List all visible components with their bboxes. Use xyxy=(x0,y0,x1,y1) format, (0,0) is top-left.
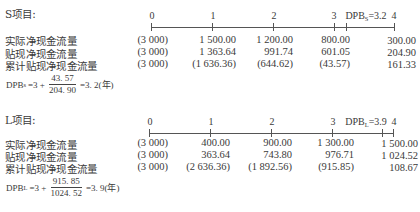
dpb-formula: DPBs =3 + 43. 57 204. 90 =3. 2(年) xyxy=(6,73,114,96)
cell: 976.71 xyxy=(284,149,354,160)
period-label: 0 xyxy=(148,116,153,127)
cell: 1 300.00 xyxy=(284,137,354,148)
cell: (3 000) xyxy=(98,137,168,148)
dpb-value: =3.2 xyxy=(368,10,386,21)
formula-prefix: =3 + xyxy=(28,80,45,90)
formula-result: =3. 2(年) xyxy=(80,78,114,91)
formula-lhs-sub: L xyxy=(24,184,28,191)
cell: 1 500.00 xyxy=(348,138,418,149)
cell: 300.00 xyxy=(346,35,416,46)
cell: 161.33 xyxy=(346,59,416,70)
cell: (43.57) xyxy=(280,58,350,69)
dpb-marker-label: DPBL=3.9 xyxy=(345,116,387,128)
dpb-marker-label: DPBS=3.2 xyxy=(345,10,386,22)
period-label: 0 xyxy=(150,10,155,21)
cell: (3 000) xyxy=(98,46,168,57)
cell: 108.67 xyxy=(348,162,418,173)
cell: (1 892.56) xyxy=(222,161,292,172)
formula-prefix: =3 + xyxy=(30,183,47,193)
period-label: 3 xyxy=(331,116,336,127)
section-title: L项目: xyxy=(5,112,36,127)
formula-lhs-sub: s xyxy=(24,81,27,88)
cell: 900.00 xyxy=(222,137,292,148)
timeline-tick xyxy=(149,129,150,137)
formula-result: =3. 9(年) xyxy=(86,181,120,194)
formula-denominator: 1024. 52 xyxy=(48,188,84,199)
period-label: 1 xyxy=(211,10,216,21)
cell: (915.85) xyxy=(284,161,354,172)
timeline-tick xyxy=(271,129,272,137)
section-l-project: L项目: 0 1 2 3 DPBL=3.9 4 实际净现金流量 (3 000) … xyxy=(0,106,420,212)
row-label: 累计贴现净现金流量 xyxy=(5,58,98,73)
timeline-tick xyxy=(332,129,333,137)
formula-fraction: 43. 57 204. 90 xyxy=(47,73,78,96)
cell: 1 024.52 xyxy=(348,150,418,161)
timeline-tick-dpb xyxy=(382,129,383,137)
section-title: S项目: xyxy=(5,6,36,21)
period-label: 2 xyxy=(272,10,277,21)
cell: 363.64 xyxy=(160,149,230,160)
timeline-tick xyxy=(210,129,211,137)
timeline-tick xyxy=(212,23,213,31)
timeline-tick xyxy=(394,23,395,31)
timeline-tick xyxy=(334,23,335,31)
cell: (2 636.36) xyxy=(160,161,230,172)
formula-lhs: DPB xyxy=(6,183,24,193)
timeline-tick-dpb xyxy=(346,23,347,31)
period-label: 4 xyxy=(392,10,397,21)
cell: 800.00 xyxy=(280,34,350,45)
cell: 400.00 xyxy=(160,137,230,148)
timeline-tick xyxy=(393,129,394,137)
cell: (3 000) xyxy=(98,34,168,45)
cell: 204.90 xyxy=(346,47,416,58)
cell: (3 000) xyxy=(98,149,168,160)
timeline-tick xyxy=(273,23,274,31)
timeline-tick xyxy=(151,23,152,31)
cell: (3 000) xyxy=(98,58,168,69)
cell: (3 000) xyxy=(98,161,168,172)
formula-lhs: DPB xyxy=(6,80,24,90)
formula-fraction: 915. 85 1024. 52 xyxy=(48,176,84,199)
cell: 601.05 xyxy=(280,46,350,57)
period-label: 4 xyxy=(392,116,397,127)
formula-numerator: 43. 57 xyxy=(49,73,76,85)
section-s-project: S项目: 0 1 2 3 DPBS=3.2 4 实际净现金流量 (3 000) … xyxy=(0,0,420,106)
dpb-prefix: DPB xyxy=(345,116,364,127)
period-label: 2 xyxy=(270,116,275,127)
formula-numerator: 915. 85 xyxy=(51,176,82,188)
dpb-formula: DPBL =3 + 915. 85 1024. 52 =3. 9(年) xyxy=(6,176,119,199)
period-label: 3 xyxy=(332,10,337,21)
row-label: 累计贴现净现金流量 xyxy=(5,161,98,176)
formula-denominator: 204. 90 xyxy=(47,85,78,96)
dpb-value: =3.9 xyxy=(369,116,387,127)
cell: 743.80 xyxy=(222,149,292,160)
period-label: 1 xyxy=(209,116,214,127)
dpb-prefix: DPB xyxy=(345,10,364,21)
